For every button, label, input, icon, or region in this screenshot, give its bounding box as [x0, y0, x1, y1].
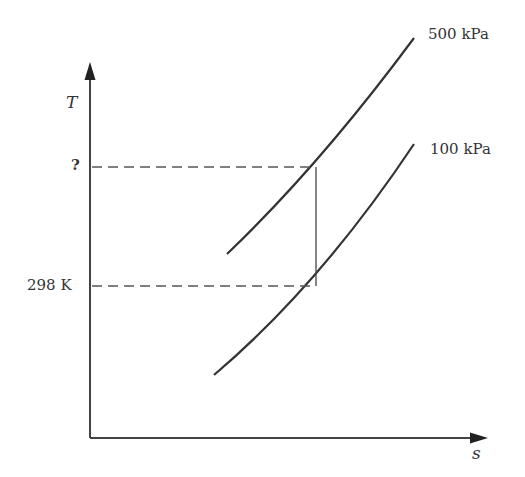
ts-diagram-canvas	[0, 0, 525, 477]
unknown-temperature-label: ?	[71, 158, 80, 173]
s-axis-arrow-icon	[470, 433, 488, 444]
isobar-100kpa-curve	[214, 144, 414, 375]
298k-temperature-label: 298 K	[27, 278, 72, 293]
isobar-500kpa-curve	[227, 38, 414, 254]
s-axis-label: s	[472, 445, 481, 462]
isobar-500kpa-label: 500 kPa	[428, 27, 489, 42]
t-axis-label: T	[66, 94, 77, 111]
t-axis-arrow-icon	[85, 62, 96, 80]
isobar-100kpa-label: 100 kPa	[430, 142, 491, 157]
